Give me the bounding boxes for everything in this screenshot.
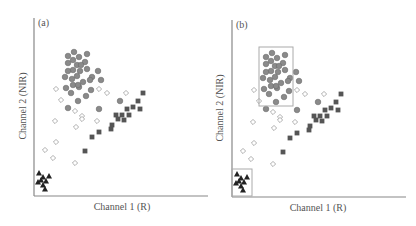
circle-marker xyxy=(88,87,94,93)
diamond-marker xyxy=(53,86,58,91)
circle-marker xyxy=(65,68,71,74)
diamond-marker xyxy=(52,118,57,123)
circle-marker xyxy=(296,78,302,84)
diamond-marker xyxy=(292,119,297,124)
circle-marker xyxy=(281,94,287,100)
square-marker xyxy=(83,149,88,154)
circle-marker xyxy=(87,77,93,83)
diamond-marker xyxy=(50,155,55,160)
diamond-marker xyxy=(270,161,275,166)
diamond-marker xyxy=(72,160,77,165)
circle-marker xyxy=(75,82,81,88)
circle-marker xyxy=(78,62,84,68)
circle-marker xyxy=(83,93,89,99)
triangle-marker xyxy=(46,173,52,178)
diamond-marker xyxy=(250,119,255,124)
circle-marker xyxy=(282,67,288,73)
triangle-marker xyxy=(234,171,240,176)
square-marker xyxy=(314,118,319,123)
panel-label: (a) xyxy=(38,17,49,29)
square-marker xyxy=(320,119,325,124)
circle-marker xyxy=(268,58,274,64)
circle-marker xyxy=(76,54,82,60)
circle-marker xyxy=(70,57,76,63)
circle-marker xyxy=(293,69,299,75)
diamond-marker xyxy=(271,125,276,130)
square-marker xyxy=(127,113,132,118)
figure: (a) Channel 1 (R) Channel 2 (NIR) (b) Ch… xyxy=(0,0,416,226)
square-marker xyxy=(329,106,334,111)
circle-marker xyxy=(286,88,292,94)
diamond-marker xyxy=(251,140,256,145)
square-marker xyxy=(336,108,341,113)
diamond-marker xyxy=(302,91,307,96)
diamond-marker xyxy=(294,87,299,92)
square-marker xyxy=(334,100,339,105)
circle-marker xyxy=(273,99,279,105)
circle-marker xyxy=(65,53,71,59)
circle-marker xyxy=(278,80,284,86)
square-marker xyxy=(109,127,114,132)
diamond-marker xyxy=(58,97,63,102)
circle-marker xyxy=(267,77,273,83)
circle-marker xyxy=(263,61,269,67)
square-marker xyxy=(323,108,328,113)
square-marker xyxy=(141,91,146,96)
circle-marker xyxy=(62,74,68,80)
square-marker xyxy=(125,107,130,112)
square-marker xyxy=(339,92,344,97)
diamond-marker xyxy=(248,156,253,161)
circle-marker xyxy=(260,75,266,81)
circle-marker xyxy=(84,66,90,72)
diamond-marker xyxy=(96,86,101,91)
circle-marker xyxy=(263,106,269,112)
x-axis-label: Channel 1 (R) xyxy=(290,202,347,214)
diamond-marker xyxy=(270,109,275,114)
circle-marker xyxy=(65,60,71,66)
circle-marker xyxy=(275,69,281,75)
diamond-marker xyxy=(94,118,99,123)
square-marker xyxy=(90,135,95,140)
triangle-marker xyxy=(36,170,42,175)
circle-marker xyxy=(261,86,267,92)
circle-marker xyxy=(74,73,80,79)
circle-marker xyxy=(75,98,81,104)
square-marker xyxy=(288,136,293,141)
diamond-marker xyxy=(123,90,128,95)
circle-marker xyxy=(285,78,291,84)
diamond-marker xyxy=(42,147,47,152)
circle-marker xyxy=(98,77,104,83)
circle-marker xyxy=(294,107,300,113)
diamond-marker xyxy=(321,91,326,96)
circle-marker xyxy=(117,98,123,104)
circle-marker xyxy=(84,51,90,57)
y-axis-label: Channel 2 (NIR) xyxy=(214,74,226,141)
square-marker xyxy=(116,117,121,122)
circle-marker xyxy=(272,74,278,80)
diamond-marker xyxy=(72,108,77,113)
data-points xyxy=(233,50,343,192)
square-marker xyxy=(281,150,286,155)
circle-marker xyxy=(65,105,71,111)
circle-marker xyxy=(77,68,83,74)
x-axis-label: Channel 1 (R) xyxy=(94,201,151,213)
circle-marker xyxy=(282,52,288,58)
circle-marker xyxy=(95,68,101,74)
square-marker xyxy=(325,114,330,119)
square-marker xyxy=(138,107,143,112)
panel-a: (a) Channel 1 (R) Channel 2 (NIR) xyxy=(17,17,208,213)
diamond-marker xyxy=(73,124,78,129)
square-marker xyxy=(122,118,127,123)
circle-marker xyxy=(266,91,272,97)
square-marker xyxy=(136,99,141,104)
circle-marker xyxy=(80,79,86,85)
circle-marker xyxy=(276,63,282,69)
circle-marker xyxy=(71,49,77,55)
circle-marker xyxy=(269,50,275,56)
square-marker xyxy=(307,128,312,133)
square-marker xyxy=(97,130,102,135)
circle-marker xyxy=(96,106,102,112)
circle-marker xyxy=(69,76,75,82)
circle-marker xyxy=(68,90,74,96)
circle-marker xyxy=(274,55,280,61)
